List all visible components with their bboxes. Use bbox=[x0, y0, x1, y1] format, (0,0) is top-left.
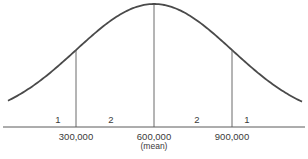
mean-annotation: (mean) bbox=[141, 141, 168, 151]
region-label: 1 bbox=[55, 114, 60, 125]
normal-distribution-chart: 1221 300,000600,000(mean)900,000 bbox=[0, 0, 308, 159]
region-label: 2 bbox=[108, 114, 113, 125]
region-label: 2 bbox=[194, 114, 199, 125]
normal-curve bbox=[8, 4, 302, 102]
x-tick-label: 300,000 bbox=[59, 131, 93, 142]
region-label: 1 bbox=[244, 114, 249, 125]
x-tick-label: 900,000 bbox=[215, 131, 249, 142]
